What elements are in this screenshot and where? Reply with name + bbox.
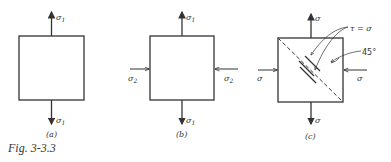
top-stress-label: σ1: [56, 13, 65, 23]
left-stress-label: σ2: [128, 74, 137, 84]
bottom-stress-label: σ1: [56, 116, 65, 126]
left-stress-label: σ: [257, 74, 263, 83]
right-stress-label: σ: [357, 74, 363, 83]
panel-label: (b): [176, 130, 187, 139]
bottom-stress-label: σ1: [186, 116, 195, 126]
angle-arc-icon: [331, 58, 339, 63]
top-stress-label: σ: [315, 14, 321, 23]
right-stress-label: σ2: [224, 74, 233, 84]
panel-b: σ1 σ1 σ2 σ2 (b): [128, 12, 238, 139]
leader-angle-icon: [331, 51, 361, 62]
bottom-stress-label: σ: [315, 116, 321, 125]
angle-annotation: 45°: [362, 48, 376, 57]
element-square: [19, 36, 84, 100]
diagonal-plane-line: [278, 38, 343, 102]
panel-a: σ1 σ1 (a): [19, 12, 84, 139]
stress-diagram: σ1 σ1 (a) σ1 σ1 σ2 σ2 (b) σ σ σ σ: [0, 0, 391, 162]
panel-c: σ σ σ σ τ = σ 45° (c): [257, 14, 376, 141]
panel-label: (c): [305, 132, 316, 141]
element-square: [150, 36, 214, 100]
panel-label: (a): [46, 130, 57, 139]
shear-annotation: τ = σ: [350, 24, 372, 33]
top-stress-label: σ1: [186, 13, 195, 23]
figure-caption: Fig. 3-3.3: [8, 141, 56, 156]
